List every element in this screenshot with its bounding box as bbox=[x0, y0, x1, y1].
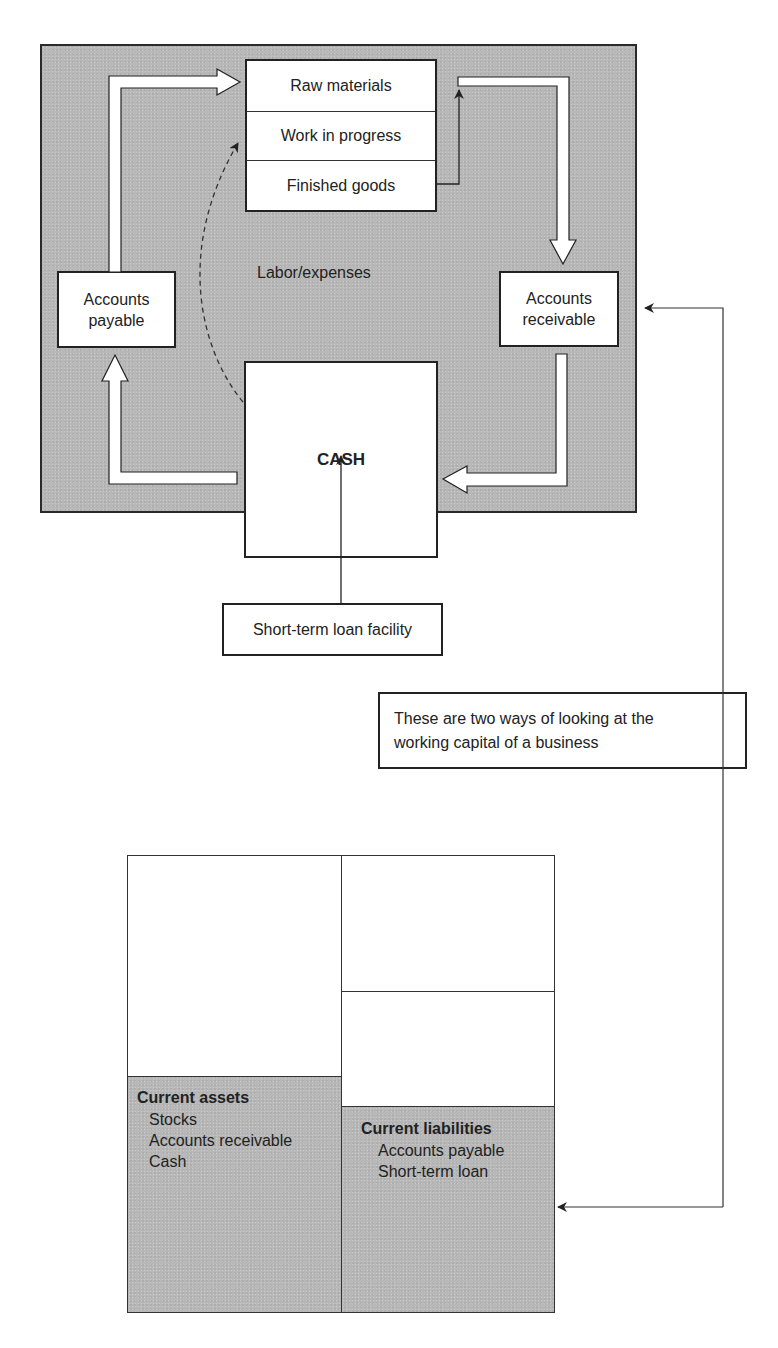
accounts-payable-box: Accounts payable bbox=[57, 271, 176, 348]
current-assets-title: Current assets bbox=[137, 1087, 341, 1109]
current-assets-block: Current assets Stocks Accounts receivabl… bbox=[128, 1076, 342, 1312]
accounts-payable-line1: Accounts bbox=[84, 289, 150, 310]
note-line2: working capital of a business bbox=[394, 731, 654, 755]
accounts-receivable-line1: Accounts bbox=[523, 288, 596, 309]
short-term-loan-facility-box: Short-term loan facility bbox=[222, 603, 443, 656]
cash-box: CASH bbox=[244, 361, 438, 558]
current-assets-item: Cash bbox=[149, 1151, 341, 1172]
inventory-finished-goods: Finished goods bbox=[247, 160, 435, 210]
current-assets-item: Accounts receivable bbox=[149, 1130, 341, 1151]
cash-label: CASH bbox=[317, 449, 365, 470]
current-liabilities-block: Current liabilities Accounts payable Sho… bbox=[342, 1106, 554, 1312]
labor-expenses-label: Labor/expenses bbox=[257, 264, 371, 282]
balance-sheet-fixed-assets-area bbox=[128, 856, 342, 1076]
current-assets-item: Stocks bbox=[149, 1109, 341, 1130]
inventory-box: Raw materials Work in progress Finished … bbox=[245, 59, 437, 212]
current-liabilities-title: Current liabilities bbox=[361, 1118, 554, 1140]
note-box: These are two ways of looking at the wor… bbox=[378, 692, 747, 769]
short-term-loan-facility-label: Short-term loan facility bbox=[253, 619, 412, 640]
current-liabilities-item: Accounts payable bbox=[378, 1140, 554, 1161]
balance-sheet: Current assets Stocks Accounts receivabl… bbox=[127, 855, 555, 1313]
current-liabilities-item: Short-term loan bbox=[378, 1161, 554, 1182]
accounts-payable-line2: payable bbox=[84, 310, 150, 331]
accounts-receivable-line2: receivable bbox=[523, 309, 596, 330]
note-line1: These are two ways of looking at the bbox=[394, 707, 654, 731]
accounts-receivable-box: Accounts receivable bbox=[499, 271, 619, 347]
balance-sheet-capital-area bbox=[342, 856, 554, 992]
inventory-work-in-progress: Work in progress bbox=[247, 111, 435, 161]
balance-sheet-long-term-liabilities-area bbox=[342, 992, 554, 1106]
inventory-raw-materials: Raw materials bbox=[247, 61, 435, 111]
